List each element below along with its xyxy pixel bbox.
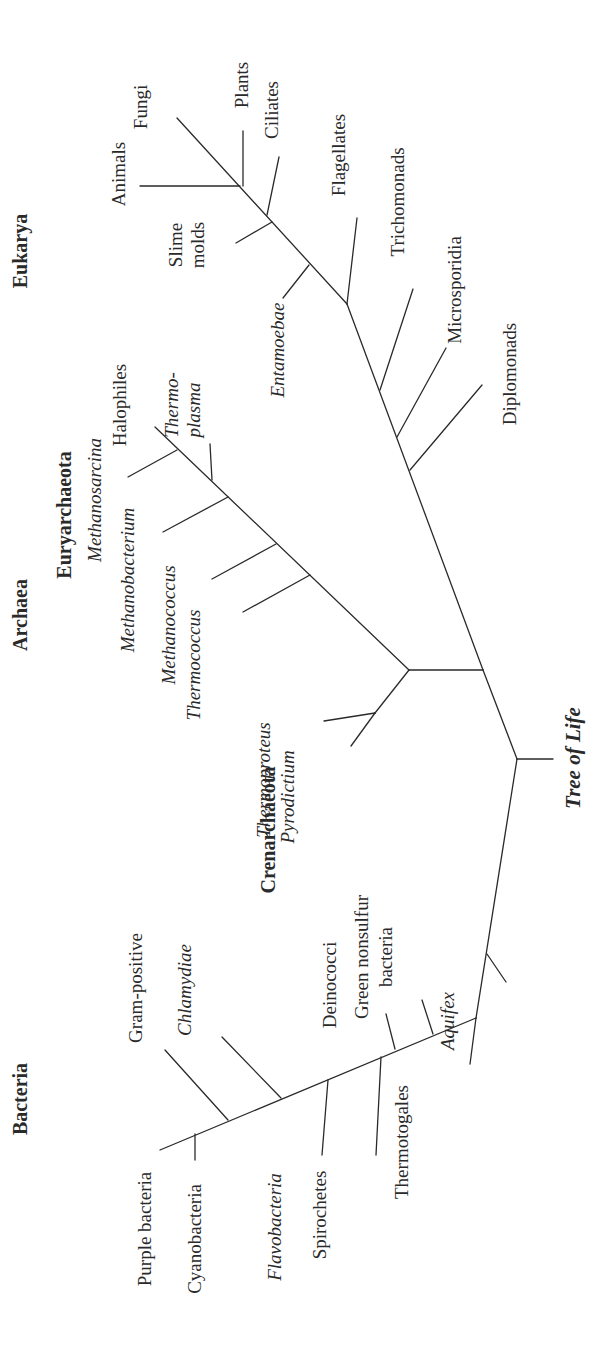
branch-bact-line <box>160 1018 476 1150</box>
branch-spirochetes <box>376 1057 381 1155</box>
label-aquifex: Aquifex <box>437 991 458 1052</box>
label-flavobacteria: Flavobacteria <box>264 1173 285 1282</box>
branch-thermotogales <box>470 1018 476 1064</box>
branch-euk-crown <box>177 118 347 304</box>
label-diplomonads: Diplomonads <box>499 323 520 425</box>
label-gram-positive: Gram-positive <box>125 933 146 1043</box>
label-plants: Plants <box>231 62 252 108</box>
label-flagellates: Flagellates <box>328 114 349 196</box>
branch-thermoproteus <box>324 713 375 721</box>
label-archaea: Archaea <box>9 579 31 651</box>
label-methanosarcina: Methanosarcina <box>84 438 105 563</box>
label-plasma: plasma <box>183 383 204 440</box>
label-slime: Slime <box>165 223 186 267</box>
branch-diplomonads <box>410 385 482 470</box>
label-euryarchaeota: Euryarchaeota <box>53 451 76 578</box>
taxon-labels: EukaryaArchaeaBacteriaEuryarchaeotaCrena… <box>9 62 585 1294</box>
branch-chlamydiae <box>222 1037 281 1098</box>
label-thermoproteus: Thermoproteus <box>253 722 274 837</box>
label-tree-of-life: Tree of Life <box>561 707 585 809</box>
branch-methanobacterium <box>163 497 228 532</box>
label-entamoebae: Entamoebae <box>267 303 288 399</box>
branch-flagellates <box>347 218 357 304</box>
branch-slime-molds <box>236 222 272 243</box>
label-fungi: Fungi <box>130 85 151 129</box>
branch-methanococcus <box>212 544 276 579</box>
label-cyanobacteria: Cyanobacteria <box>184 1184 205 1294</box>
label-methanobacterium: Methanobacterium <box>117 508 138 654</box>
label-thermo: Thermo- <box>161 372 182 437</box>
branch-thermoplasma <box>210 444 212 480</box>
label-green-bacteria: bacteria <box>375 926 396 987</box>
branch-entamoebae <box>283 265 309 298</box>
label-spirochetes: Spirochetes <box>309 1171 330 1260</box>
branch-root-to-bacteria <box>476 759 517 1018</box>
branch-gram-positive <box>165 1050 228 1120</box>
label-ciliates: Ciliates <box>261 81 282 139</box>
branch-methanosarcina <box>128 450 177 477</box>
label-methanococcus: Methanococcus <box>158 565 179 685</box>
branch-thermococcus <box>243 575 310 612</box>
label-halophiles: Halophiles <box>109 364 130 446</box>
branch-pyrodictium <box>351 713 375 746</box>
label-molds: molds <box>187 222 208 268</box>
label-bacteria: Bacteria <box>9 1063 31 1135</box>
branch-euk-stem <box>347 304 483 670</box>
label-purple-bacteria: Purple bacteria <box>134 1171 155 1286</box>
branch-root-to-euk-arch <box>483 670 517 759</box>
label-microsporidia: Microsporidia <box>444 236 465 344</box>
branch-deinococci <box>386 1014 395 1049</box>
label-eukarya: Eukarya <box>9 214 32 288</box>
label-deinococci: Deinococci <box>319 942 340 1029</box>
label-green-nonsulfur: Green nonsulfur <box>351 894 372 1019</box>
label-animals: Animals <box>108 142 129 206</box>
branch-cren-stem <box>375 670 409 713</box>
label-chlamydiae: Chlamydiae <box>174 944 195 1036</box>
branch-ciliates <box>267 157 279 215</box>
label-thermococcus: Thermococcus <box>183 610 204 721</box>
label-thermotogales: Thermotogales <box>391 1085 412 1199</box>
tree-of-life-diagram: EukaryaArchaeaBacteriaEuryarchaeotaCrena… <box>0 0 608 1356</box>
branch-microsporidia <box>397 348 446 437</box>
branch-aquifex <box>487 954 506 982</box>
branch-flavobacteria <box>322 1080 328 1155</box>
branch-trichomonads <box>380 289 413 390</box>
branch-green-nonsulfur <box>422 1000 433 1034</box>
label-trichomonads: Trichomonads <box>387 147 408 256</box>
label-pyrodictium: Pyrodictium <box>277 750 298 844</box>
